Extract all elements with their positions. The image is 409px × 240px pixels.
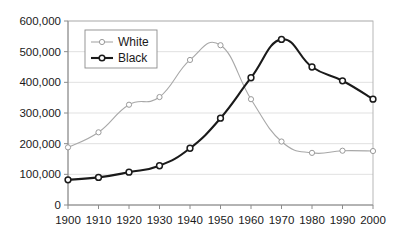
data-point-black-1970 [279, 37, 285, 43]
data-point-white-1920 [126, 102, 131, 107]
data-point-white-1990 [340, 148, 345, 153]
y-tick-label: 200,000 [19, 138, 61, 150]
y-tick-label: 100,000 [19, 168, 61, 180]
data-point-black-1990 [340, 78, 346, 84]
x-tick-label: 2000 [360, 214, 386, 226]
data-point-black-2000 [370, 96, 376, 102]
data-point-white-1940 [187, 57, 192, 62]
x-axis-ticks: 1900191019201930194019501960197019801990… [55, 205, 386, 226]
data-point-white-1980 [309, 150, 314, 155]
chart-container: 0100,000200,000300,000400,000500,000600,… [0, 0, 409, 240]
data-point-black-1960 [248, 75, 254, 81]
data-point-black-1900 [65, 177, 71, 183]
x-tick-label: 1910 [86, 214, 112, 226]
data-point-black-1910 [96, 175, 102, 181]
x-tick-label: 1980 [299, 214, 325, 226]
legend-label-white: White [118, 35, 149, 49]
data-point-white-1960 [248, 97, 253, 102]
data-point-black-1980 [309, 64, 315, 70]
x-tick-label: 1940 [177, 214, 203, 226]
data-point-black-1920 [126, 169, 132, 175]
x-tick-label: 1930 [147, 214, 173, 226]
x-tick-label: 1900 [55, 214, 81, 226]
y-tick-label: 600,000 [19, 15, 61, 27]
data-point-white-1900 [65, 145, 70, 150]
legend-marker-black [99, 55, 105, 61]
x-tick-label: 1970 [269, 214, 295, 226]
x-tick-label: 1990 [330, 214, 356, 226]
data-point-black-1940 [187, 145, 193, 151]
y-tick-label: 0 [55, 199, 61, 211]
y-tick-label: 400,000 [19, 76, 61, 88]
data-point-black-1950 [218, 115, 224, 121]
data-point-black-1930 [157, 163, 163, 169]
data-point-white-2000 [370, 148, 375, 153]
x-tick-label: 1960 [238, 214, 264, 226]
data-point-white-1970 [279, 139, 284, 144]
data-point-white-1950 [218, 43, 223, 48]
y-axis-ticks: 0100,000200,000300,000400,000500,000600,… [19, 15, 68, 211]
x-tick-label: 1920 [116, 214, 142, 226]
legend-marker-white [99, 39, 104, 44]
data-point-white-1930 [157, 94, 162, 99]
y-tick-label: 300,000 [19, 107, 61, 119]
line-chart: 0100,000200,000300,000400,000500,000600,… [0, 0, 409, 240]
legend-label-black: Black [118, 51, 148, 65]
y-tick-label: 500,000 [19, 46, 61, 58]
x-tick-label: 1950 [208, 214, 234, 226]
data-point-white-1910 [96, 130, 101, 135]
legend: White Black [85, 30, 157, 68]
